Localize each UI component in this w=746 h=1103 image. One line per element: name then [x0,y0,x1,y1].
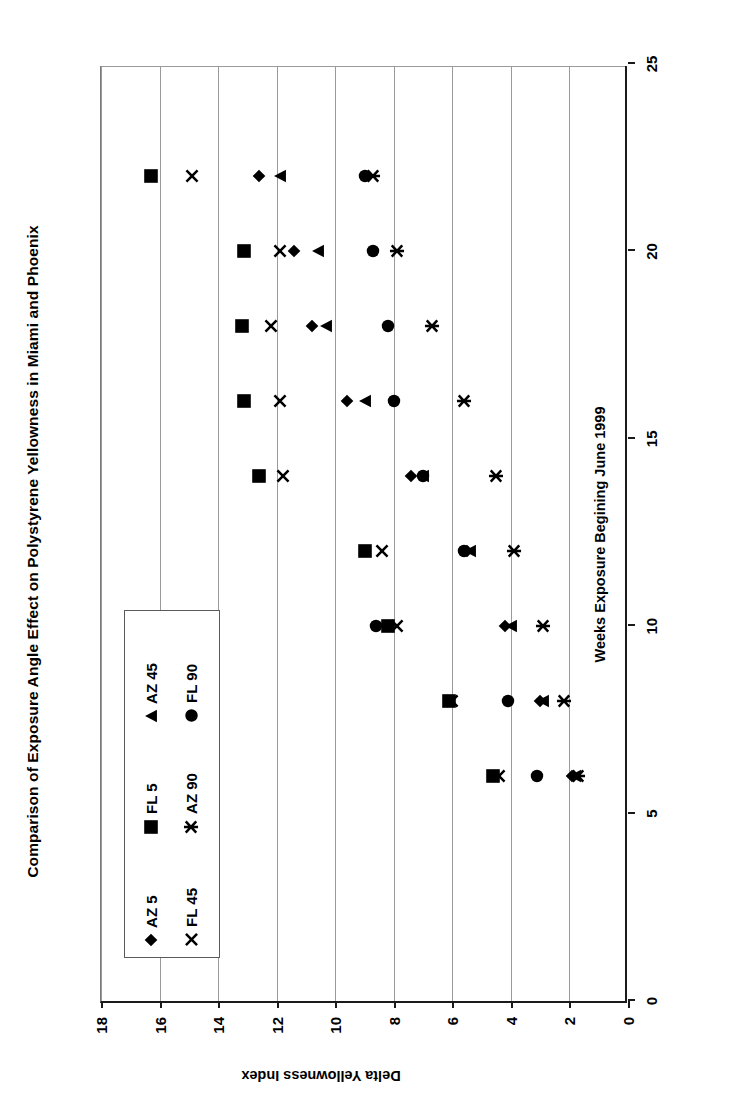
legend-entry-label: AZ 5 [143,895,160,928]
data-point-marker [457,544,472,559]
data-point-marker [184,169,199,184]
data-point-marker [530,769,545,784]
y-axis-tick [452,1001,454,1008]
legend-entry-fl-45[interactable]: FL 45 [183,835,200,947]
data-point-marker [416,469,431,484]
data-point-marker [357,543,373,559]
x-axis-tick-label: 15 [643,430,660,447]
gridline-value [335,66,336,1001]
rotated-page-wrapper: Comparison of Exposure Angle Effect on P… [0,0,746,1103]
data-point-marker [311,244,325,258]
y-axis-title: Delta Yellowness Index [58,1068,585,1084]
legend-entry-label: FL 45 [183,888,200,927]
x-axis-tick-label: 20 [643,243,660,260]
gridline-value [452,66,453,1001]
data-point-marker [251,468,267,484]
data-point-marker [389,619,404,634]
data-point-marker [386,394,401,409]
legend-entry-label: AZ 45 [143,663,160,704]
legend-entry-label: FL 90 [183,664,200,703]
chart-title: Comparison of Exposure Angle Effect on P… [24,0,42,1103]
x-axis-tick-label: 10 [643,618,660,635]
y-axis-tick-label: 16 [151,1017,168,1034]
y-axis-tick-label: 6 [444,1017,461,1025]
y-axis-tick [101,1001,103,1008]
y-axis-tick [277,1001,279,1008]
y-axis-tick-label: 14 [210,1017,227,1034]
data-point-marker [492,769,507,784]
data-point-marker [234,318,250,334]
legend-entry-label: FL 5 [143,783,160,814]
legend-entry-az-45[interactable]: AZ 45 [143,611,160,723]
legend-entry-fl-5[interactable]: FL 5 [143,723,160,835]
y-axis-tick [628,1001,630,1008]
data-point-marker [272,394,287,409]
legend-entry-az-5[interactable]: AZ 5 [143,835,160,947]
data-point-marker [263,319,278,334]
data-point-marker [319,319,333,333]
legend-entry-label: AZ 90 [183,773,200,814]
x-axis-tick-label: 5 [643,809,660,817]
x-axis-title: Weeks Exposure Begining June 1999 [592,66,608,1003]
data-point-marker [535,618,551,634]
square-marker-icon [143,819,159,835]
data-point-marker [275,469,290,484]
y-axis-tick [335,1001,337,1008]
data-point-marker [506,543,522,559]
gridline-value [511,66,512,1001]
y-axis-tick-label: 2 [561,1017,578,1025]
data-point-marker [488,468,504,484]
y-axis-tick [160,1001,162,1008]
y-axis-tick-label: 0 [620,1017,637,1025]
gridline-value [277,66,278,1001]
legend-entry-fl-90[interactable]: FL 90 [183,611,200,723]
x-axis-tick-label: 25 [643,56,660,73]
y-axis-tick [394,1001,396,1008]
plot-frame-right-edge [101,66,625,67]
y-axis-tick [511,1001,513,1008]
data-point-marker [375,544,390,559]
data-point-marker [236,243,252,259]
star-marker-icon [183,819,199,835]
gridline-value [394,66,395,1001]
data-point-marker [380,319,395,334]
plot-area: 0510152025024681012141618 [100,66,627,1003]
data-point-marker [389,243,405,259]
data-point-marker [424,318,440,334]
legend-entry-az-90[interactable]: AZ 90 [183,723,200,835]
x-axis-tick [628,437,635,439]
x-axis-tick [628,812,635,814]
data-point-marker [252,169,266,183]
chart-legend[interactable]: AZ 5FL 5AZ 45 FL 45 AZ 90FL 90 [124,610,220,958]
y-axis-tick-label: 18 [93,1017,110,1034]
data-point-marker [500,694,515,709]
data-point-marker [272,244,287,259]
data-point-marker [456,393,472,409]
data-point-marker [504,619,518,633]
circle-marker-icon [184,708,199,723]
y-axis-tick-label: 4 [502,1017,519,1025]
diamond-marker-icon [144,933,158,947]
data-point-marker [536,694,550,708]
data-point-marker [287,244,301,258]
x-axis-tick [628,62,635,64]
data-point-marker [556,693,572,709]
y-axis-tick-label: 12 [268,1017,285,1034]
data-point-marker [570,768,586,784]
x-axis-tick-label: 0 [643,997,660,1005]
data-point-marker [357,169,372,184]
y-axis-tick [569,1001,571,1008]
y-axis-tick-label: 8 [385,1017,402,1025]
data-point-marker [305,319,319,333]
x-axis-tick [628,624,635,626]
x-axis-tick [628,249,635,251]
triangle-marker-icon [144,709,158,723]
data-point-marker [273,169,287,183]
data-point-marker [445,694,460,709]
x-marker-icon [184,932,199,947]
data-point-marker [143,168,159,184]
y-axis-tick-label: 10 [327,1017,344,1034]
chart-figure: Comparison of Exposure Angle Effect on P… [0,0,746,1103]
y-axis-tick [218,1001,220,1008]
data-point-marker [358,394,372,408]
